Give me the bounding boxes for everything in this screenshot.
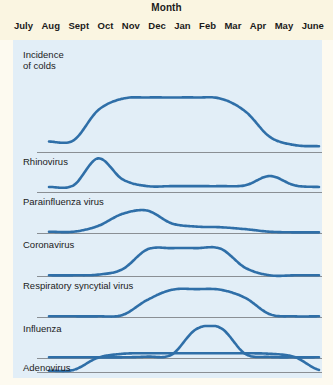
x-tick-june: June xyxy=(302,20,324,31)
x-tick-sept: Sept xyxy=(68,20,89,31)
curve-incidence-of-colds xyxy=(49,97,319,146)
x-axis-title: Month xyxy=(0,2,333,13)
panel-curves xyxy=(49,97,319,371)
x-tick-feb: Feb xyxy=(199,20,216,31)
x-tick-oct: Oct xyxy=(98,20,114,31)
chart-header: Month July Aug Sept Oct Nov Dec Jan Feb … xyxy=(0,0,333,40)
x-tick-mar: Mar xyxy=(224,20,241,31)
curve-adenovirus xyxy=(49,353,319,371)
panel-label-respiratory-syncytial-virus: Respiratory syncytial virus xyxy=(23,280,133,291)
panel-label-parainfluenza-virus: Parainfluenza virus xyxy=(23,196,104,207)
curve-rhinovirus xyxy=(49,158,319,187)
x-tick-nov: Nov xyxy=(122,20,140,31)
x-tick-dec: Dec xyxy=(148,20,165,31)
curve-respiratory-syncytial-virus xyxy=(49,289,319,317)
panel-label-influenza: Influenza xyxy=(23,323,62,334)
curve-parainfluenza-virus xyxy=(49,210,319,232)
x-tick-july: July xyxy=(14,20,33,31)
x-tick-apr: Apr xyxy=(250,20,266,31)
x-tick-may: May xyxy=(275,20,293,31)
panel-label-adenovirus: Adenovirus xyxy=(23,362,71,373)
seasonal-virus-incidence-figure: Month July Aug Sept Oct Nov Dec Jan Feb … xyxy=(0,0,333,385)
panel-label-coronavirus: Coronavirus xyxy=(23,239,74,250)
x-axis-tick-labels: July Aug Sept Oct Nov Dec Jan Feb Mar Ap… xyxy=(14,20,324,31)
plot-area: Incidence of colds Rhinovirus Parainflue… xyxy=(13,40,322,378)
panel-label-rhinovirus: Rhinovirus xyxy=(23,156,68,167)
x-tick-aug: Aug xyxy=(42,20,60,31)
curve-coronavirus xyxy=(49,247,319,276)
x-tick-jan: Jan xyxy=(174,20,190,31)
panel-label-incidence-of-colds: Incidence of colds xyxy=(23,49,64,71)
